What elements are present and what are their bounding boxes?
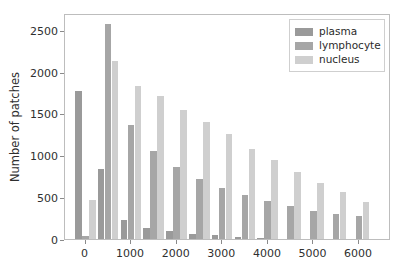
bar-lymphocyte-4500 <box>287 206 294 239</box>
legend-swatch-nucleus <box>295 56 313 64</box>
y-tick-label: 2500 <box>10 24 58 37</box>
legend-label-lymphocyte: lymphocyte <box>319 40 381 51</box>
bar-nucleus-3500 <box>249 149 256 239</box>
x-tick-label: 2000 <box>146 247 206 260</box>
legend-item-plasma: plasma <box>295 25 379 38</box>
x-tick-mark <box>85 240 86 244</box>
bar-plasma-2000 <box>166 231 173 239</box>
bar-lymphocyte-3500 <box>242 195 249 239</box>
x-tick-mark <box>221 240 222 244</box>
bar-nucleus-5500 <box>340 192 347 239</box>
legend-label-nucleus: nucleus <box>319 54 360 65</box>
bar-lymphocyte-1000 <box>128 125 135 239</box>
legend-label-plasma: plasma <box>319 26 357 37</box>
x-tick-label: 6000 <box>328 247 388 260</box>
figure: 05001000150020002500 0100020003000400050… <box>0 0 410 271</box>
x-tick-label: 4000 <box>237 247 297 260</box>
x-tick-mark <box>176 240 177 244</box>
bar-nucleus-4500 <box>294 172 301 239</box>
x-tick-mark <box>358 240 359 244</box>
bar-plasma-4000 <box>257 238 264 239</box>
y-tick-label: 0 <box>10 234 58 247</box>
chart-legend: plasma lymphocyte nucleus <box>289 19 385 72</box>
bar-nucleus-0 <box>89 200 96 239</box>
bar-lymphocyte-3000 <box>219 188 226 239</box>
bar-nucleus-4000 <box>271 160 278 239</box>
bar-plasma-2500 <box>189 234 196 239</box>
legend-swatch-plasma <box>295 28 313 36</box>
bar-plasma-500 <box>98 169 105 239</box>
bar-lymphocyte-500 <box>105 24 112 239</box>
bar-lymphocyte-2500 <box>196 179 203 239</box>
bar-lymphocyte-4000 <box>264 201 271 239</box>
bar-nucleus-5000 <box>317 183 324 240</box>
y-tick-label: 500 <box>10 192 58 205</box>
bar-plasma-0 <box>75 91 82 239</box>
bar-nucleus-1500 <box>157 96 164 239</box>
bar-lymphocyte-2000 <box>173 167 180 239</box>
x-tick-mark <box>267 240 268 244</box>
bar-plasma-1000 <box>121 220 128 239</box>
y-tick-mark <box>60 240 64 241</box>
x-tick-label: 1000 <box>100 247 160 260</box>
bar-lymphocyte-6000 <box>356 216 363 239</box>
x-tick-mark <box>312 240 313 244</box>
bar-lymphocyte-5500 <box>333 214 340 239</box>
legend-item-lymphocyte: lymphocyte <box>295 39 379 52</box>
bar-lymphocyte-1500 <box>150 151 157 239</box>
bar-plasma-1500 <box>143 228 150 239</box>
bar-nucleus-2000 <box>180 110 187 239</box>
legend-item-nucleus: nucleus <box>295 53 379 66</box>
bar-nucleus-500 <box>112 61 119 239</box>
bar-nucleus-1000 <box>135 86 142 239</box>
y-axis-label: Number of patches <box>8 67 22 187</box>
x-tick-mark <box>130 240 131 244</box>
bar-nucleus-6000 <box>363 202 370 239</box>
bar-nucleus-2500 <box>203 122 210 239</box>
x-tick-label: 5000 <box>282 247 342 260</box>
bar-plasma-3000 <box>212 235 219 239</box>
x-tick-label: 3000 <box>191 247 251 260</box>
bar-lymphocyte-5000 <box>310 211 317 239</box>
bar-nucleus-3000 <box>226 134 233 239</box>
bar-lymphocyte-0 <box>82 236 89 239</box>
x-tick-label: 0 <box>55 247 115 260</box>
legend-swatch-lymphocyte <box>295 42 313 50</box>
bar-plasma-3500 <box>235 237 242 239</box>
